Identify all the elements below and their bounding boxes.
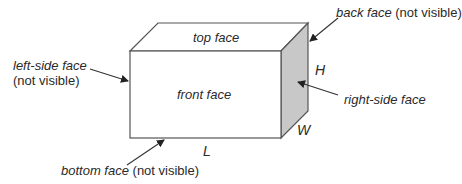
bottom-face-label: bottom face [61, 163, 129, 178]
back-face-note: (not visible) [395, 5, 461, 20]
width-label: W [297, 123, 310, 138]
front-face-label: front face [177, 87, 231, 102]
height-label: H [315, 63, 325, 78]
top-face-label: top face [193, 30, 239, 45]
back-face-arrow [310, 18, 338, 41]
right-side-face-label: right-side face [344, 92, 426, 107]
bottom-face-arrow [127, 140, 164, 165]
left-side-face-label: left-side face [13, 58, 87, 73]
bottom-face-note: (not visible) [133, 163, 199, 178]
length-label: L [203, 144, 211, 159]
left-side-face-note: (not visible) [13, 73, 79, 88]
back-face-callout: back face (not visible) [336, 5, 462, 20]
back-face-label: back face [336, 5, 392, 20]
left-face-arrow [90, 69, 128, 81]
bottom-face-callout: bottom face (not visible) [61, 163, 199, 178]
